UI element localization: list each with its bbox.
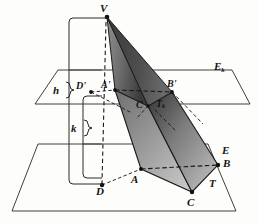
point-b-prime-label: B' [167,79,176,89]
point-c-prime-label: C [136,100,143,110]
upper-solid-label: Tk [156,99,165,110]
vertex-V [105,15,110,20]
vertex-C [190,190,194,194]
vertex-A-prime [113,88,117,92]
vertex-A [139,167,143,171]
height-k-label: k [71,123,77,134]
upper-plane-label: Ek [214,61,225,73]
point-c-label: C [187,197,194,208]
vertex-B [216,163,220,167]
vertex-D-prime [89,90,93,94]
height-h-label: h [53,85,59,96]
diagram-svg [0,0,258,224]
point-a-prime-label: A' [101,80,110,90]
brace-k [84,120,92,136]
lower-solid-label: T [209,178,216,189]
point-d-prime-label: D' [76,81,86,91]
apex-label: V [100,3,107,14]
vertex-C-prime [146,104,149,107]
point-d-label: D [96,186,104,197]
point-a-label: A [131,174,138,185]
lower-plane-label: E [222,145,229,156]
geometry-figure-canvas: V Ek h k D' A' B' C Tk E B T D A C [0,0,258,224]
vertex-B-prime [170,90,174,94]
point-b-label: B [223,158,230,169]
